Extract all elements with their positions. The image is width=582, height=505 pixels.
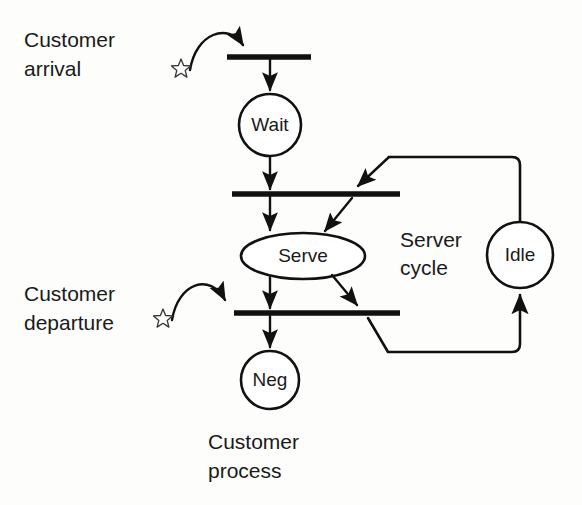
place-serve-label: Serve xyxy=(278,245,328,266)
place-idle-label: Idle xyxy=(505,244,536,265)
server-cycle-upper-path xyxy=(389,157,520,222)
label-customer-departure-line1: Customer xyxy=(24,282,115,305)
label-customer-process-line2: process xyxy=(208,459,282,482)
arc-idle-to-start-transition xyxy=(358,157,389,186)
label-customer-arrival-line1: Customer xyxy=(24,28,115,51)
place-wait-label: Wait xyxy=(251,114,289,135)
petri-net-canvas: Wait Serve Neg Idle xyxy=(0,0,582,505)
arc-departure-token-to-transition xyxy=(172,284,225,320)
label-customer-process-line1: Customer xyxy=(208,430,299,453)
place-neg-label: Neg xyxy=(253,369,288,390)
label-customer-arrival-line2: arrival xyxy=(24,57,81,80)
star-token-departure-icon xyxy=(154,309,173,327)
arc-serve-to-departure-diagonal xyxy=(332,275,357,305)
server-cycle-lower-path xyxy=(368,295,520,352)
star-token-arrival-icon xyxy=(172,59,191,77)
label-server-cycle-line2: cycle xyxy=(400,256,448,279)
petri-net-diagram: Wait Serve Neg Idle xyxy=(0,0,582,505)
label-customer-departure-line2: departure xyxy=(24,311,114,334)
arc-start-transition-to-serve xyxy=(325,198,352,231)
arc-arrival-token-to-transition xyxy=(190,33,243,70)
label-server-cycle-line1: Server xyxy=(400,228,462,251)
